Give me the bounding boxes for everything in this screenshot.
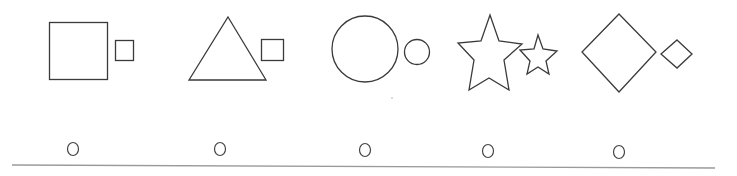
worksheet-canvas bbox=[0, 0, 737, 176]
item-5-shape-pair bbox=[582, 14, 692, 92]
answer-option-1[interactable] bbox=[68, 143, 79, 156]
answer-option-2[interactable] bbox=[215, 143, 226, 156]
answer-option-3[interactable] bbox=[360, 144, 371, 157]
small-star-icon bbox=[520, 35, 557, 74]
big-star-icon bbox=[458, 15, 522, 90]
small-circle-icon bbox=[405, 40, 430, 65]
big-triangle-icon bbox=[189, 17, 266, 80]
small-square-icon bbox=[116, 41, 134, 61]
answer-option-5[interactable] bbox=[614, 146, 625, 159]
small-diamond-icon bbox=[661, 40, 692, 68]
divider-line bbox=[12, 165, 715, 168]
big-diamond-icon bbox=[582, 14, 656, 92]
small-square-icon bbox=[262, 40, 284, 61]
speck-mark bbox=[391, 97, 393, 99]
item-4-shape-pair bbox=[458, 15, 557, 90]
item-2-shape-pair bbox=[189, 17, 284, 80]
answer-option-4[interactable] bbox=[483, 145, 494, 158]
item-3-shape-pair bbox=[332, 16, 430, 99]
item-1-shape-pair bbox=[50, 23, 134, 80]
big-square-icon bbox=[50, 23, 108, 80]
big-circle-icon bbox=[332, 16, 398, 82]
